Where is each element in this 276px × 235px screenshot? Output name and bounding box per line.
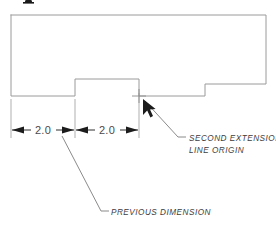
part-outline — [11, 15, 266, 96]
clipped-header-glyph — [23, 0, 34, 4]
pick-cursor-icon — [143, 99, 156, 117]
dimension-value-left: 2.0 — [35, 124, 51, 136]
callout-second-extension-line-2: LINE ORIGIN — [189, 146, 244, 155]
technical-drawing: 2.0 2.0 SECOND EXTENSION LINE ORIGIN — [0, 0, 276, 235]
arrowhead-left-inner — [62, 127, 74, 134]
dimension-right: 2.0 — [76, 124, 138, 136]
arrowhead-right-inner — [126, 127, 138, 134]
dimension-value-right: 2.0 — [99, 124, 115, 136]
callout-previous-dimension: PREVIOUS DIMENSION — [111, 208, 211, 217]
callout-second-extension-line-1: SECOND EXTENSION — [189, 134, 276, 143]
arrowhead-left-outer — [12, 127, 24, 134]
drawing-canvas: 2.0 2.0 SECOND EXTENSION LINE ORIGIN — [0, 0, 276, 235]
leader-previous-dimension — [62, 136, 109, 211]
arrowhead-right-outer — [76, 127, 88, 134]
dimension-left: 2.0 — [12, 124, 74, 136]
